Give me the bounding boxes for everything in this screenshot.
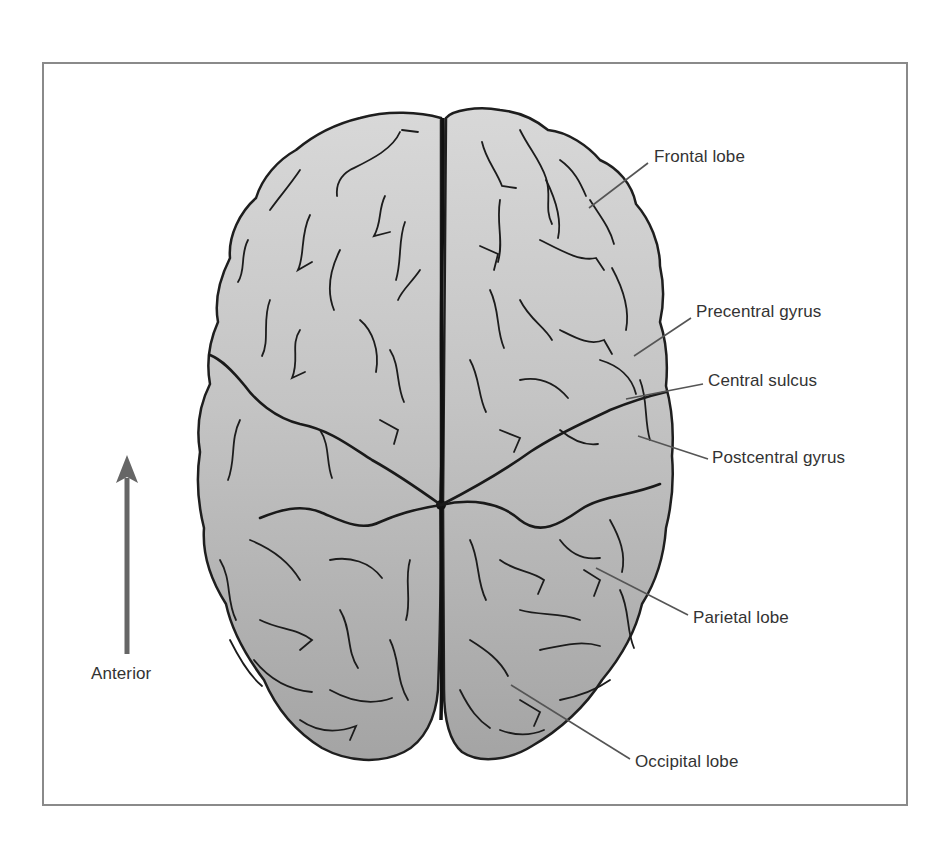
label-precentral-gyrus: Precentral gyrus	[696, 303, 821, 320]
label-central-sulcus: Central sulcus	[708, 372, 817, 389]
right-hemisphere	[443, 108, 673, 759]
label-frontal-lobe: Frontal lobe	[654, 148, 745, 165]
longitudinal-fissure	[441, 118, 443, 720]
label-anterior: Anterior	[91, 665, 151, 682]
label-postcentral-gyrus: Postcentral gyrus	[712, 449, 845, 466]
brain-diagram	[0, 0, 947, 845]
label-occipital-lobe: Occipital lobe	[635, 753, 738, 770]
anterior-arrow-icon	[116, 455, 138, 654]
label-parietal-lobe: Parietal lobe	[693, 609, 789, 626]
